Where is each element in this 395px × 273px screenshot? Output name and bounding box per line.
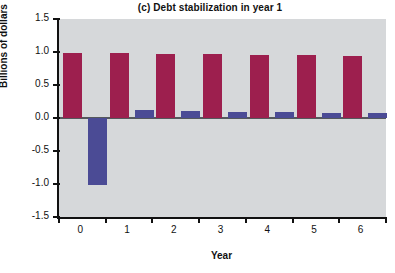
x-tick-label-1: 1 (115, 224, 139, 235)
y-tick-label-2: 0.5 (13, 78, 49, 89)
bar-blue-year-1 (135, 110, 154, 118)
bar-red-year-4 (250, 55, 269, 118)
y-tick-0 (53, 18, 60, 20)
chart-figure: (c) Debt stabilization in year 1 Billion… (0, 0, 395, 273)
bar-blue-year-6 (368, 113, 387, 118)
x-tick-label-6: 6 (349, 224, 373, 235)
y-tick-label-3: 0.0 (13, 111, 49, 122)
bar-red-year-1 (110, 53, 129, 118)
x-tick-2 (151, 217, 153, 223)
bar-blue-year-4 (275, 112, 294, 118)
y-tick-2 (53, 84, 60, 86)
bar-blue-year-3 (228, 112, 247, 118)
plot-area (57, 19, 386, 219)
y-tick-1 (53, 51, 60, 53)
x-tick-label-0: 0 (68, 224, 92, 235)
x-tick-4 (245, 217, 247, 223)
y-tick-4 (53, 150, 60, 152)
bar-blue-year-0 (88, 118, 107, 185)
y-tick-3 (53, 117, 60, 119)
bar-blue-year-5 (322, 113, 341, 118)
bar-red-year-5 (297, 55, 316, 118)
chart-title: (c) Debt stabilization in year 1 (60, 2, 360, 13)
x-axis-label: Year (57, 250, 386, 261)
bar-red-year-3 (203, 54, 222, 118)
y-axis-label: Billions of dollars (0, 4, 9, 88)
x-tick-label-4: 4 (255, 224, 279, 235)
y-tick-label-1: 1.0 (13, 45, 49, 56)
y-tick-label-5: -1.0 (13, 177, 49, 188)
x-tick-label-3: 3 (209, 224, 233, 235)
x-tick-7 (385, 217, 387, 223)
x-tick-0 (58, 217, 60, 223)
plot-inner (59, 19, 386, 217)
y-tick-label-6: -1.5 (13, 210, 49, 221)
bar-red-year-2 (156, 54, 175, 118)
y-tick-5 (53, 183, 60, 185)
y-tick-label-0: 1.5 (13, 12, 49, 23)
bar-red-year-0 (63, 53, 82, 118)
x-tick-1 (105, 217, 107, 223)
x-tick-6 (338, 217, 340, 223)
x-tick-label-2: 2 (162, 224, 186, 235)
x-tick-5 (292, 217, 294, 223)
y-tick-label-4: -0.5 (13, 144, 49, 155)
bar-red-year-6 (343, 56, 362, 118)
bar-blue-year-2 (181, 111, 200, 118)
x-tick-3 (198, 217, 200, 223)
x-tick-label-5: 5 (302, 224, 326, 235)
